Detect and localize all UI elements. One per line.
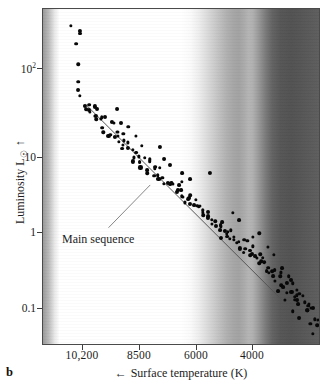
star-scatter-points <box>43 9 319 344</box>
star-point <box>225 232 229 236</box>
star-point <box>242 251 246 255</box>
star-point <box>199 205 202 208</box>
star-point <box>279 274 283 278</box>
star-point <box>115 107 119 111</box>
star-point <box>183 201 186 204</box>
y-tick-label-3: 0.1 <box>22 302 36 314</box>
star-point <box>158 166 162 170</box>
star-point <box>188 177 192 181</box>
x-axis-title-text: Surface temperature (K) <box>131 366 248 380</box>
star-point <box>267 246 270 249</box>
y-tick-mark-0 <box>37 68 42 69</box>
star-point <box>126 141 129 144</box>
plot-area <box>42 8 320 345</box>
star-point <box>276 289 280 293</box>
star-point <box>231 211 234 214</box>
star-point <box>266 266 270 270</box>
star-point <box>256 256 259 259</box>
star-point <box>138 165 142 169</box>
y-tick-label-0: 102 <box>21 61 36 75</box>
star-point <box>121 144 124 147</box>
star-point <box>219 236 223 240</box>
y-tick-mark-3 <box>37 308 42 309</box>
star-point <box>76 62 80 66</box>
star-point <box>175 190 179 194</box>
star-point <box>168 163 172 167</box>
star-point <box>117 141 120 144</box>
star-point <box>120 147 124 151</box>
star-point <box>298 316 302 320</box>
star-point <box>218 228 222 232</box>
star-point <box>122 132 125 135</box>
solar-symbol-icon: ☉ <box>19 150 29 158</box>
star-point <box>228 237 231 240</box>
star-point <box>76 89 80 93</box>
star-point <box>137 155 140 158</box>
star-point <box>102 130 105 133</box>
star-point <box>280 271 283 274</box>
star-point <box>76 80 80 84</box>
star-point <box>296 302 300 306</box>
star-point <box>281 285 285 289</box>
star-point <box>311 306 315 310</box>
star-point <box>285 291 288 294</box>
star-point <box>311 332 314 335</box>
star-point <box>243 247 247 251</box>
star-point <box>163 157 167 161</box>
star-point <box>138 160 142 164</box>
star-point <box>116 131 119 134</box>
star-point <box>180 180 183 183</box>
star-point <box>177 183 181 187</box>
star-point <box>112 122 115 125</box>
star-point <box>161 176 164 179</box>
star-point <box>78 32 82 36</box>
x-tick-label-6000: 6000 <box>184 349 208 361</box>
x-axis-arrow-icon: ← <box>115 366 125 380</box>
y-tick-mark-2 <box>37 232 42 233</box>
star-point <box>273 268 277 272</box>
star-point <box>78 94 81 97</box>
star-point <box>188 194 192 198</box>
star-point <box>122 139 125 142</box>
star-point <box>116 135 119 138</box>
y-axis-title: Luminosity L☉↑ <box>13 98 29 268</box>
star-point <box>126 146 130 150</box>
x-axis-title: ←Surface temperature (K) <box>42 366 320 381</box>
star-point <box>127 125 131 129</box>
star-point <box>158 145 162 149</box>
star-point <box>285 281 289 285</box>
star-point <box>180 171 184 175</box>
star-point <box>271 274 275 278</box>
x-tick-label-4000: 4000 <box>240 349 264 361</box>
y-axis-arrow-icon: ↑ <box>13 142 27 146</box>
star-point <box>315 323 319 327</box>
star-point <box>95 117 99 121</box>
star-point <box>210 222 213 225</box>
star-point <box>103 115 107 119</box>
star-point <box>194 198 197 201</box>
star-point <box>140 144 143 147</box>
star-point <box>280 266 284 270</box>
y-tick-mark-1 <box>37 157 42 158</box>
hr-diagram-figure: 10,200850060004000 1021010.1 Luminosity … <box>0 0 326 389</box>
star-point <box>74 42 78 46</box>
star-point <box>301 294 304 297</box>
star-point <box>108 133 111 136</box>
star-point <box>291 281 295 285</box>
star-point <box>291 310 295 314</box>
x-tick-label-8500: 8500 <box>127 349 151 361</box>
star-point <box>206 210 210 214</box>
star-point <box>262 260 266 264</box>
star-point <box>201 214 205 218</box>
y-axis-title-text: Luminosity L <box>13 158 27 224</box>
star-point <box>273 280 276 283</box>
star-point <box>237 218 241 222</box>
star-point <box>213 219 216 222</box>
main-sequence-label: Main sequence <box>62 232 134 247</box>
star-point <box>214 224 218 228</box>
star-point <box>246 239 249 242</box>
star-point <box>134 135 137 138</box>
star-point <box>180 188 184 192</box>
x-tick-label-10200: 10,200 <box>66 349 99 361</box>
star-point <box>119 121 123 125</box>
